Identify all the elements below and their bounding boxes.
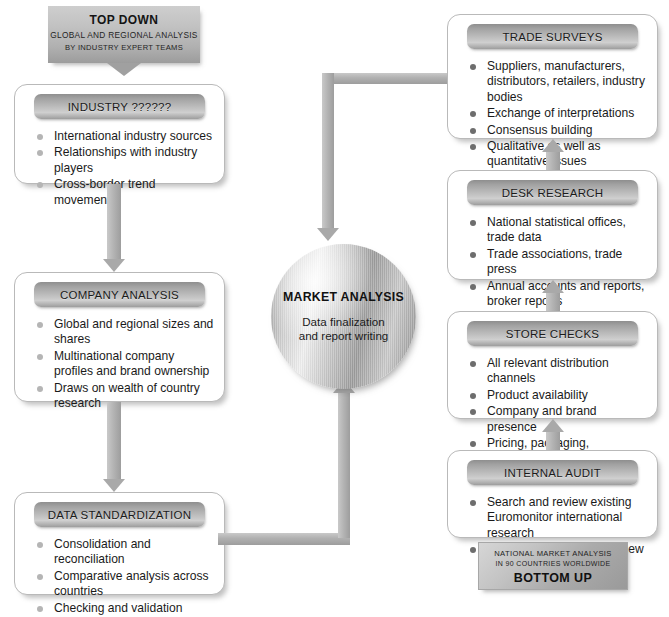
top-down-banner: TOP DOWN GLOBAL AND REGIONAL ANALYSIS BY… — [48, 6, 200, 63]
list-item: Suppliers, manufacturers, distributors, … — [470, 59, 647, 105]
bottom-up-banner: NATIONAL MARKET ANALYSIS IN 90 COUNTRIES… — [478, 542, 628, 590]
panel-data-standardization[interactable]: DATA STANDARDIZATION Consolidation and r… — [14, 492, 225, 595]
arrow-down-icon — [103, 479, 125, 492]
banner-notch-icon — [107, 63, 141, 76]
panel-store-checks[interactable]: STORE CHECKS All relevant distribution c… — [447, 311, 658, 419]
list-item: Cross-border trend movements — [37, 177, 214, 208]
list-item: National statistical offices, trade data — [470, 215, 647, 246]
list-item: International industry sources — [37, 129, 214, 144]
panel-trade-surveys[interactable]: TRADE SURVEYS Suppliers, manufacturers, … — [447, 14, 658, 139]
list-item: Checking and validation — [37, 601, 214, 616]
connector-trade-surveys-horizontal — [322, 73, 452, 84]
panel-industry[interactable]: INDUSTRY ?????? International industry s… — [14, 84, 225, 184]
list-item: Global and regional sizes and shares — [37, 317, 214, 348]
panel-industry-header: INDUSTRY ?????? — [34, 94, 205, 119]
arrow-down-icon — [317, 228, 339, 241]
bottom-up-title: BOTTOM UP — [479, 571, 627, 585]
list-item: Consensus building — [470, 123, 647, 138]
top-down-subtitle-2: BY INDUSTRY EXPERT TEAMS — [48, 43, 200, 52]
connector-industry-to-company — [107, 184, 121, 262]
panel-trade-surveys-header: TRADE SURVEYS — [467, 24, 638, 49]
list-item: Consolidation and reconciliation — [37, 537, 214, 568]
sphere-title: MARKET ANALYSIS — [283, 290, 404, 304]
list-item: Multinational company profiles and brand… — [37, 349, 214, 380]
sphere-subtitle: Data finalization and report writing — [299, 315, 389, 344]
panel-data-standardization-bullets: Consolidation and reconciliation Compara… — [37, 537, 214, 617]
list-item: Trade associations, trade press — [470, 247, 647, 278]
arrow-down-icon — [103, 259, 125, 272]
top-down-subtitle-1: GLOBAL AND REGIONAL ANALYSIS — [48, 30, 200, 40]
panel-internal-audit[interactable]: INTERNAL AUDIT Search and review existin… — [447, 450, 658, 538]
panel-industry-bullets: International industry sources Relations… — [37, 129, 214, 209]
bottom-up-line-2: IN 90 COUNTRIES WORLDWIDE — [479, 560, 627, 567]
sphere-subtitle-line-1: Data finalization — [302, 315, 385, 328]
panel-desk-research[interactable]: DESK RESEARCH National statistical offic… — [447, 170, 658, 280]
panel-company-analysis-header: COMPANY ANALYSIS — [34, 282, 205, 307]
list-item: Product availability — [470, 388, 647, 403]
arrow-up-icon — [542, 280, 564, 293]
panel-store-checks-header: STORE CHECKS — [467, 321, 638, 346]
connector-standardization-horizontal — [218, 533, 350, 545]
connector-company-to-standardization — [107, 402, 121, 482]
panel-company-analysis[interactable]: COMPANY ANALYSIS Global and regional siz… — [14, 272, 225, 402]
list-item: Search and review existing Euromonitor i… — [470, 495, 647, 541]
connector-trade-surveys-vertical — [322, 73, 334, 230]
sphere-subtitle-line-2: and report writing — [299, 329, 389, 342]
panel-company-analysis-bullets: Global and regional sizes and shares Mul… — [37, 317, 214, 412]
list-item: Draws on wealth of country research — [37, 381, 214, 412]
top-down-title: TOP DOWN — [48, 13, 200, 27]
arrow-up-icon — [542, 419, 564, 432]
arrow-up-icon — [542, 139, 564, 152]
list-item: Comparative analysis across countries — [37, 569, 214, 600]
list-item: Relationships with industry players — [37, 145, 214, 176]
list-item: All relevant distribution channels — [470, 356, 647, 387]
connector-standardization-vertical — [338, 392, 350, 538]
panel-internal-audit-header: INTERNAL AUDIT — [467, 460, 638, 485]
panel-desk-research-header: DESK RESEARCH — [467, 180, 638, 205]
panel-data-standardization-header: DATA STANDARDIZATION — [34, 502, 205, 527]
list-item: Exchange of interpretations — [470, 106, 647, 121]
market-analysis-sphere: MARKET ANALYSIS Data finalization and re… — [271, 244, 416, 389]
bottom-up-line-1: NATIONAL MARKET ANALYSIS — [479, 549, 627, 558]
